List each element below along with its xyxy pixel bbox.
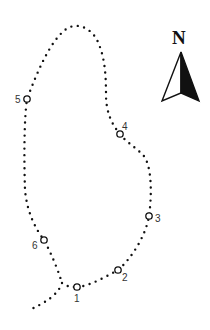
north-arrow: N: [162, 27, 199, 101]
waypoint-1-label: 1: [74, 293, 80, 304]
north-label: N: [172, 27, 186, 48]
waypoint-5-label: 5: [15, 94, 21, 105]
waypoint-6-label: 6: [32, 240, 38, 251]
waypoint-1[interactable]: 1: [74, 284, 80, 304]
trail-map: 1 2 3 4 5 6 N: [0, 0, 210, 330]
waypoint-2-label: 2: [122, 272, 128, 283]
waypoint-5[interactable]: 5: [15, 94, 30, 105]
north-arrow-icon: [162, 52, 181, 101]
trail-loop: [24, 26, 150, 287]
waypoint-3[interactable]: 3: [146, 213, 161, 224]
trail-spur: [29, 283, 77, 310]
waypoint-4[interactable]: 4: [117, 121, 128, 137]
waypoint-4-label: 4: [122, 121, 128, 132]
waypoint-3-label: 3: [155, 213, 161, 224]
waypoint-6[interactable]: 6: [32, 237, 47, 251]
waypoint-2[interactable]: 2: [115, 267, 128, 283]
